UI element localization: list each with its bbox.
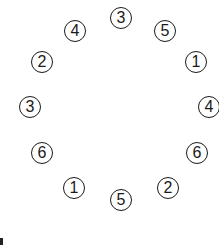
circle-node-5-top-right: 5: [154, 20, 176, 42]
circle-node-5-bottom: 5: [110, 189, 132, 211]
circle-node-3-left: 3: [19, 96, 41, 118]
circle-node-6-right-lower: 6: [186, 142, 208, 164]
circle-node-4-top-left: 4: [64, 20, 86, 42]
circle-node-2-left-upper: 2: [31, 51, 53, 73]
circle-node-1-right-upper: 1: [185, 51, 207, 73]
circle-node-2-bottom-right: 2: [157, 177, 179, 199]
circle-node-1-bottom-left: 1: [63, 177, 85, 199]
circle-node-6-left-lower: 6: [31, 142, 53, 164]
circle-node-4-right: 4: [198, 96, 219, 118]
edge-mark: [0, 238, 3, 245]
circle-node-3-top: 3: [110, 7, 132, 29]
